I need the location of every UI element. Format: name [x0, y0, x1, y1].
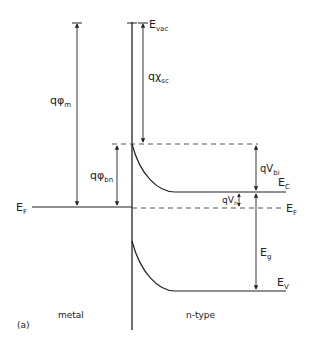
eg-label: Eg: [260, 246, 271, 261]
ef-left-label: EF: [16, 201, 27, 216]
q-chi-sc-label: qχsc: [148, 70, 169, 85]
q-phi-bn-label: qφbn: [90, 169, 113, 184]
q-v-n-label: qVn: [222, 195, 238, 206]
ef-right-label: EF: [286, 202, 297, 217]
ev-label: EV: [277, 276, 289, 291]
n-type-region-label: n-type: [186, 310, 216, 320]
metal-region-label: metal: [58, 310, 84, 320]
q-v-bi-label: qVbi: [260, 163, 280, 177]
band-diagram: Evac qφm qχsc qφbn qVbi qVn EF EF EC EV …: [0, 0, 309, 347]
ec-label: EC: [278, 176, 290, 191]
evac-label: Evac: [149, 18, 168, 33]
panel-label: (a): [17, 320, 30, 330]
q-phi-m-label: qφm: [50, 94, 71, 109]
